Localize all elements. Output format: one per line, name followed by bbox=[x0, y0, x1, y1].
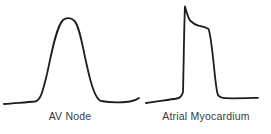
atrial-myocardium-trace bbox=[146, 7, 258, 104]
av-node-label: AV Node bbox=[49, 110, 92, 122]
figure-canvas: AV Node Atrial Myocardium bbox=[0, 0, 271, 134]
action-potential-figure: AV Node Atrial Myocardium bbox=[0, 0, 271, 134]
atrial-myocardium-label: Atrial Myocardium bbox=[162, 110, 249, 122]
av-node-trace bbox=[4, 18, 139, 104]
